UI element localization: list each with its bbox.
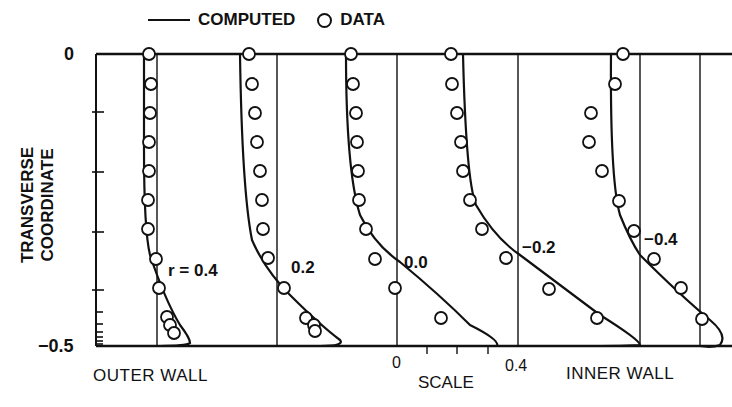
data-points <box>142 48 708 339</box>
scale-max-label: 0.4 <box>505 357 527 375</box>
y-tick-bottom: −0.5 <box>38 336 74 357</box>
inner-wall-label: INNER WALL <box>566 364 674 384</box>
legend: COMPUTED DATA <box>148 10 385 30</box>
label-r-m0.2: −0.2 <box>522 238 556 258</box>
y-axis-title-line1: TRANSVERSE <box>18 120 38 290</box>
curve-r-m0.4 <box>611 54 723 347</box>
label-r-0.2: 0.2 <box>291 258 315 278</box>
legend-circle-icon <box>317 13 332 28</box>
y-axis-title-line2: COORDINATE <box>38 120 58 290</box>
outer-wall-label: OUTER WALL <box>93 366 208 386</box>
scale-min-label: 0 <box>392 354 401 372</box>
scale-label: SCALE <box>418 373 474 393</box>
y-axis-title: TRANSVERSE COORDINATE <box>18 120 58 290</box>
label-r-0.4: r = 0.4 <box>168 261 218 281</box>
legend-line-icon <box>148 19 190 21</box>
legend-computed-label: COMPUTED <box>198 10 295 30</box>
legend-data-label: DATA <box>340 10 385 30</box>
label-r-0.0: 0.0 <box>404 253 428 273</box>
chart-canvas <box>0 0 732 407</box>
y-ticks <box>92 112 104 344</box>
computed-curves <box>144 54 722 347</box>
label-r-m0.4: −0.4 <box>644 230 678 250</box>
y-tick-top: 0 <box>64 44 74 65</box>
